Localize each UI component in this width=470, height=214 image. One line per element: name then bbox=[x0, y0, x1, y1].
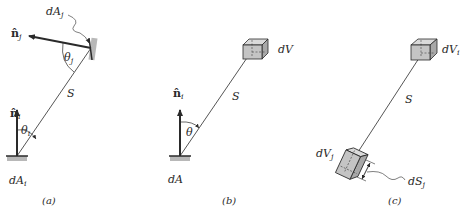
line-S bbox=[358, 52, 423, 152]
label-theta-i: θi bbox=[21, 125, 30, 138]
line-S bbox=[180, 52, 251, 156]
radiation-geometry-figure bbox=[0, 0, 470, 214]
label-dV: dV bbox=[278, 44, 293, 55]
label-S-c: S bbox=[405, 94, 413, 105]
leader-dSj bbox=[367, 172, 405, 181]
label-nj: n̂j bbox=[11, 28, 21, 41]
caption-a: (a) bbox=[42, 196, 56, 206]
label-ni-a: n̂i bbox=[10, 108, 21, 121]
caption-c: (c) bbox=[388, 196, 401, 206]
line-S bbox=[17, 48, 91, 156]
normal-nj-arrow bbox=[29, 36, 91, 48]
leader-dAj bbox=[68, 15, 89, 43]
label-S-a: S bbox=[67, 88, 75, 99]
label-dVi: dVi bbox=[442, 44, 460, 57]
label-dA: dA bbox=[168, 174, 183, 185]
label-dAi: dAi bbox=[9, 175, 27, 188]
volume-element-dVi bbox=[411, 39, 437, 60]
panel-c bbox=[335, 39, 437, 182]
caption-b: (b) bbox=[222, 196, 236, 206]
label-S-b: S bbox=[232, 91, 240, 102]
label-ni-b: n̂i bbox=[173, 88, 184, 101]
label-dSj: dSj bbox=[408, 176, 425, 189]
volume-element-dV bbox=[243, 39, 268, 59]
label-dVj: dVj bbox=[316, 148, 333, 161]
label-theta-j: θj bbox=[64, 52, 73, 65]
label-theta: θ bbox=[186, 127, 193, 138]
label-dAj: dAj bbox=[46, 6, 63, 19]
